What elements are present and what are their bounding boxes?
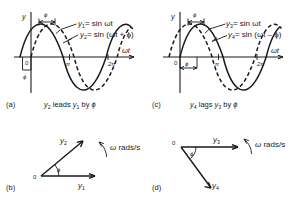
panel-c-label-y4-equation: y4= sin (ωt – ϕ) (227, 30, 282, 40)
panel-c-caption-tail: by (221, 100, 233, 109)
panel-b-label-y1-subscript: 1 (82, 185, 85, 191)
panel-c-tag: (c) (152, 100, 161, 109)
panel-a-x-axis-label: ωt (122, 46, 131, 55)
panel-c-label-y4-rhs: = sin (ωt – ϕ) (235, 30, 282, 39)
panel-a-caption-verb: leads (51, 100, 73, 109)
panel-a-label-y2-equation: y2= sin (ωt + ϕ) (79, 30, 134, 40)
panel-a-label-y2-rhs: = sin (ωt + ϕ) (87, 30, 134, 39)
panel-b-tag: (b) (6, 183, 16, 192)
panel-d-label-y3-subscript: 3 (217, 139, 220, 145)
panel-d-label-y4-subscript: 4 (216, 185, 219, 191)
panel-c-caption: y4 lags y3 by ϕ (189, 100, 237, 110)
panel-d-tag: (d) (152, 183, 162, 192)
panel-a-tag: (a) (6, 100, 16, 109)
panel-a-caption: y2 leads y1 by ϕ (43, 100, 96, 110)
panel-a-caption-tail: by (79, 100, 91, 109)
panel-c-label-y3-rhs: = sin ωt (233, 19, 262, 28)
panel-b-rotation-label: ω rads/s (110, 143, 140, 152)
panel-b-label-y2-subscript: 2 (64, 140, 67, 146)
figure-container: y ωt 0 π 2π ϕ ϕ (0, 0, 297, 207)
panel-a-label-y1-rhs: = sin ωt (85, 19, 114, 28)
panel-c-x-axis-label: ωt (271, 46, 280, 55)
panel-a-caption-angle: ϕ (91, 100, 95, 109)
panel-c-caption-verb: lags (197, 100, 215, 109)
panel-c-caption-angle: ϕ (233, 100, 237, 109)
panel-d-rotation-label: ω rads/s (255, 140, 285, 149)
